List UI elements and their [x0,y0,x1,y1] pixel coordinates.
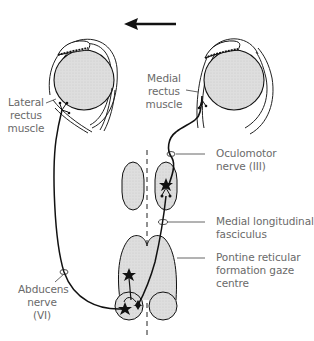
label-oculomotor-nerve: Oculomotor nerve (III) [216,147,277,173]
label-medial-rectus: Medial rectus muscle [140,72,188,111]
right-eyeball [197,39,273,134]
label-medial-longitudinal-fasciculus: Medial longitudinal fasciculus [216,215,314,241]
abducens-nerve-path [54,110,122,309]
gaze-direction-arrow-icon [124,18,176,30]
label-abducens-nerve: Abducens nerve (VI) [18,283,66,322]
label-lateral-rectus: Lateral rectus muscle [3,96,49,135]
label-pprf: Pontine reticular formation gaze centre [216,251,301,290]
